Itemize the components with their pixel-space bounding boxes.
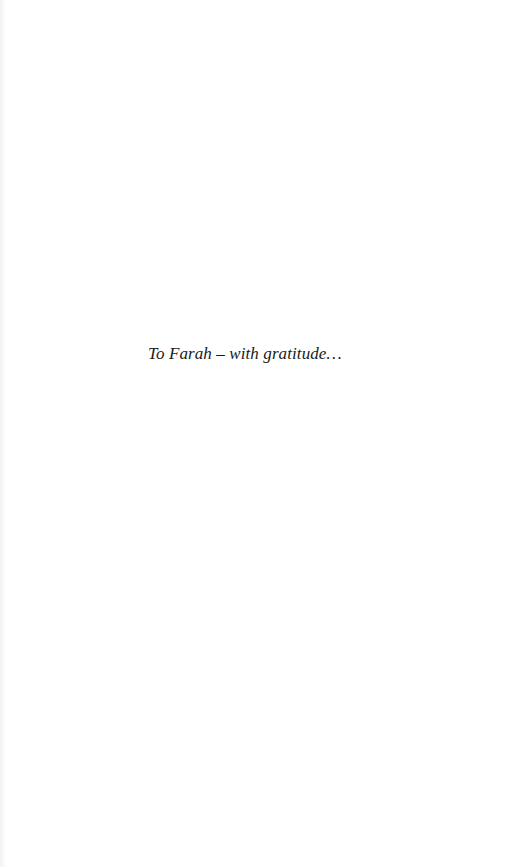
dedication-text: To Farah – with gratitude… [148, 343, 342, 365]
page-edge-shadow [0, 0, 6, 867]
book-page: To Farah – with gratitude… [0, 0, 509, 867]
